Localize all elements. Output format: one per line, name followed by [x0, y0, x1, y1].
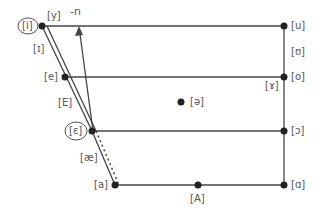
label-y: [y]: [47, 10, 61, 22]
nasal-arrow: [80, 34, 93, 131]
label-gamma: [ɤ]: [265, 80, 279, 92]
label-u: [u]: [291, 20, 305, 32]
point-u: [281, 23, 288, 30]
label-E: [E]: [58, 97, 72, 109]
label-alpha: [ɑ]: [291, 179, 305, 191]
label-epsilon: [ɛ]: [69, 125, 82, 137]
arrow-label: -n: [70, 6, 81, 18]
point-open-o: [281, 128, 288, 135]
label-i: [i]: [22, 20, 33, 32]
label-I: [ɪ]: [33, 43, 45, 55]
vowel-diagram: [0, 0, 320, 220]
point-e: [62, 74, 69, 81]
point-epsilon: [89, 128, 96, 135]
label-o: [o]: [291, 71, 305, 83]
label-U: [ʊ]: [291, 46, 305, 58]
point-schwa: [178, 99, 185, 106]
label-a: [a]: [94, 179, 108, 191]
label-schwa: [ə]: [190, 96, 204, 108]
point-a: [112, 182, 119, 189]
lower-front-dashed: [96, 131, 119, 185]
label-A: [A]: [190, 193, 205, 205]
point-i: [39, 23, 46, 30]
point-alpha: [281, 182, 288, 189]
label-open-o: [ɔ]: [291, 125, 304, 137]
point-o: [281, 74, 288, 81]
point-A: [195, 182, 202, 189]
label-e: [e]: [44, 71, 58, 83]
label-ae: [æ]: [80, 152, 98, 164]
arrow-head-icon: [75, 26, 83, 36]
